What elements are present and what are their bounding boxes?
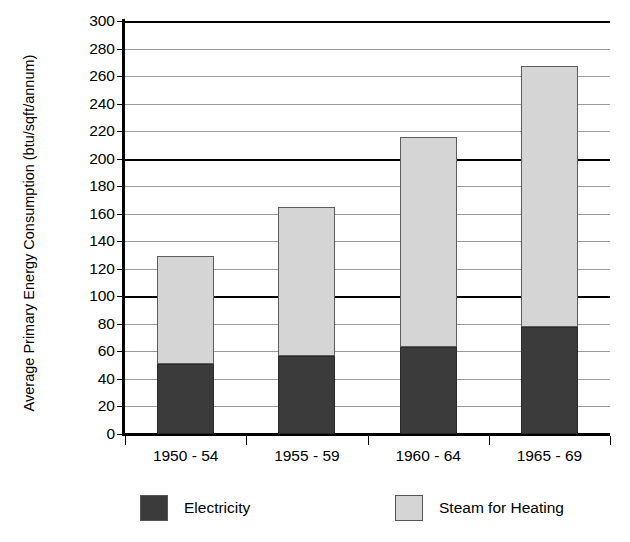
y-axis-tick-mark bbox=[117, 21, 125, 22]
y-axis-tick-label: 200 bbox=[75, 151, 115, 166]
bar-segment-steam-for-heating[interactable] bbox=[400, 137, 457, 348]
y-axis-tick-mark bbox=[117, 406, 125, 407]
chart-legend: ElectricitySteam for Heating bbox=[0, 495, 630, 529]
y-axis-tick-label: 40 bbox=[75, 371, 115, 386]
y-axis-tick-label: 220 bbox=[75, 123, 115, 138]
x-axis-tick-labels: 1950 - 541955 - 591960 - 641965 - 69 bbox=[125, 447, 610, 471]
y-axis-tick-mark bbox=[117, 324, 125, 325]
y-axis-tick-label: 100 bbox=[75, 288, 115, 303]
y-axis-tick-mark bbox=[117, 159, 125, 160]
stacked-bar-chart: Average Primary Energy Consumption (btu/… bbox=[0, 0, 630, 542]
bar-stack[interactable] bbox=[521, 21, 578, 434]
x-axis-tick-mark bbox=[610, 436, 611, 445]
bar-segment-electricity[interactable] bbox=[157, 364, 214, 434]
y-axis-tick-mark bbox=[117, 296, 125, 297]
y-axis-tick-label: 0 bbox=[75, 426, 115, 441]
bar-segment-steam-for-heating[interactable] bbox=[521, 66, 578, 326]
y-axis-tick-mark bbox=[117, 434, 125, 435]
y-axis-title: Average Primary Energy Consumption (btu/… bbox=[21, 23, 37, 443]
bar-stack[interactable] bbox=[157, 21, 214, 434]
y-axis-tick-label: 120 bbox=[75, 261, 115, 276]
y-axis-tick-mark bbox=[117, 241, 125, 242]
y-axis-tick-label: 160 bbox=[75, 206, 115, 221]
x-axis-tick-mark bbox=[489, 436, 490, 445]
legend-label: Steam for Heating bbox=[439, 499, 564, 517]
y-axis-tick-label: 60 bbox=[75, 343, 115, 358]
y-axis-tick-label: 140 bbox=[75, 233, 115, 248]
y-axis-tick-mark bbox=[117, 76, 125, 77]
bar-stack[interactable] bbox=[278, 21, 335, 434]
y-axis-tick-mark bbox=[117, 104, 125, 105]
bar-segment-electricity[interactable] bbox=[521, 327, 578, 434]
y-axis-tick-label: 280 bbox=[75, 41, 115, 56]
legend-item[interactable]: Electricity bbox=[140, 495, 250, 521]
legend-label: Electricity bbox=[184, 499, 250, 517]
x-axis-tick-label: 1955 - 59 bbox=[274, 447, 340, 465]
legend-swatch-steam-for-heating bbox=[395, 495, 423, 521]
x-axis-tick-mark bbox=[125, 436, 126, 445]
x-axis-tick-label: 1965 - 69 bbox=[517, 447, 583, 465]
y-axis-tick-mark bbox=[117, 269, 125, 270]
y-axis-tick-mark bbox=[117, 214, 125, 215]
x-axis-tick-marks bbox=[125, 436, 610, 446]
x-axis-tick-mark bbox=[246, 436, 247, 445]
y-axis-tick-label: 260 bbox=[75, 68, 115, 83]
plot-area bbox=[125, 21, 610, 434]
y-axis-tick-mark bbox=[117, 379, 125, 380]
y-axis-tick-mark bbox=[117, 49, 125, 50]
x-axis-tick-label: 1960 - 64 bbox=[395, 447, 461, 465]
y-axis-tick-label: 300 bbox=[75, 13, 115, 28]
x-axis-tick-label: 1950 - 54 bbox=[153, 447, 219, 465]
bar-segment-steam-for-heating[interactable] bbox=[157, 256, 214, 363]
legend-swatch-electricity bbox=[140, 495, 168, 521]
y-axis-tick-mark bbox=[117, 186, 125, 187]
bar-stack[interactable] bbox=[400, 21, 457, 434]
bars-layer bbox=[125, 21, 610, 434]
y-axis-tick-label: 180 bbox=[75, 178, 115, 193]
y-axis-tick-label: 240 bbox=[75, 96, 115, 111]
x-axis-tick-mark bbox=[368, 436, 369, 445]
y-axis-tick-label: 80 bbox=[75, 316, 115, 331]
bar-segment-electricity[interactable] bbox=[278, 356, 335, 434]
bar-segment-electricity[interactable] bbox=[400, 347, 457, 434]
legend-item[interactable]: Steam for Heating bbox=[395, 495, 564, 521]
y-axis-tick-mark bbox=[117, 131, 125, 132]
bar-segment-steam-for-heating[interactable] bbox=[278, 207, 335, 356]
y-axis-tick-label: 20 bbox=[75, 398, 115, 413]
y-axis-tick-labels: 3002802602402202001801601401201008060402… bbox=[69, 21, 115, 434]
y-axis-tick-mark bbox=[117, 351, 125, 352]
